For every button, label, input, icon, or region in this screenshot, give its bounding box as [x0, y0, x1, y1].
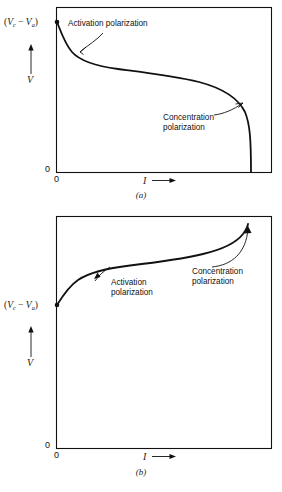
- v-axis-arrow-head-a: [28, 44, 33, 51]
- start-point-marker-a: [55, 20, 60, 25]
- x-axis-origin-tick-a: 0: [54, 175, 59, 185]
- concentration-polarization-label-b-line2: polarization: [192, 277, 234, 287]
- minus-symbol: −: [18, 17, 23, 27]
- panel-caption-a: (a): [0, 190, 282, 200]
- plot-a-graphic: [0, 0, 282, 205]
- paren-close: ): [35, 17, 38, 27]
- i-axis-arrow-head-a: [170, 178, 177, 183]
- polarization-curve-a: [57, 22, 251, 172]
- y-axis-start-label-a: (Vc − Va): [4, 17, 38, 28]
- i-axis-arrow-head-b: [170, 454, 177, 459]
- y-axis-label-a: V: [27, 74, 33, 85]
- v-subscript-cathode: c: [13, 304, 16, 311]
- activation-polarization-label-a: Activation polarization: [68, 19, 148, 29]
- y-axis-label-b: V: [27, 357, 33, 368]
- y-axis-start-label-b: (Vc − Va): [4, 300, 38, 311]
- minus-symbol: −: [18, 300, 23, 310]
- paren-close: ): [35, 300, 38, 310]
- plot-a-frame: [57, 8, 272, 173]
- concentration-polarization-label-b-line1: Concentration: [192, 267, 243, 277]
- concentration-leader-a: [214, 103, 243, 115]
- x-axis-label-b: I: [143, 451, 146, 462]
- v-subscript-cathode: c: [13, 21, 16, 28]
- plot-b-frame: [57, 217, 272, 449]
- y-axis-origin-tick-b: 0: [45, 441, 50, 451]
- activation-arrowhead-a: [80, 47, 86, 55]
- activation-polarization-label-b-line2: polarization: [111, 288, 153, 298]
- v-axis-arrow-head-b: [28, 326, 33, 333]
- concentration-polarization-label-a-line1: Concentration: [163, 113, 214, 123]
- concentration-polarization-label-a-line2: polarization: [163, 123, 205, 133]
- y-axis-origin-tick-a: 0: [45, 165, 50, 175]
- panel-caption-b: (b): [0, 467, 282, 477]
- start-point-marker-b: [55, 303, 60, 308]
- figure-panel-b: (Vc − Va) Activation polarization Concen…: [0, 205, 282, 492]
- figure-panel-a: (Vc − Va) Activation polarization Concen…: [0, 0, 282, 205]
- activation-polarization-label-b-line1: Activation: [111, 278, 147, 288]
- plot-b-graphic: [0, 205, 282, 492]
- x-axis-label-a: I: [143, 175, 146, 186]
- x-axis-origin-tick-b: 0: [54, 451, 59, 461]
